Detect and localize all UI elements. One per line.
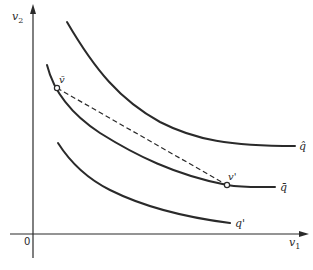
point-v-prime [224, 182, 229, 187]
point-v-bar [54, 85, 59, 90]
label-q-prime: q' [235, 217, 245, 230]
y-axis-label: v2 [12, 10, 23, 25]
curve-q-hat [67, 22, 295, 146]
axes [10, 8, 305, 258]
y-axis-arrow-icon [30, 4, 36, 14]
curve-q-bar [47, 65, 275, 187]
origin-label: 0 [24, 236, 30, 247]
curve-q-prime [58, 143, 230, 223]
label-v-prime: v' [228, 171, 236, 182]
x-axis-label: v1 [289, 236, 300, 251]
label-v-bar: v̄ [59, 74, 65, 85]
label-q-bar: q̄ [280, 181, 287, 194]
indifference-curve-diagram: v2 v1 0 v̄ v' q̂ q̄ q' [0, 0, 313, 270]
x-axis-arrow-icon [299, 231, 309, 237]
label-q-hat: q̂ [299, 140, 306, 153]
